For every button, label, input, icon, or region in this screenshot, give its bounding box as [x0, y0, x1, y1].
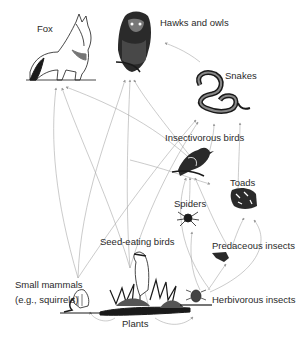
label-seed-eating-birds: Seed-eating birds — [100, 236, 174, 247]
arrow-small-mammals-to-fox — [54, 88, 78, 278]
herbivorous-insect-illustration — [180, 290, 212, 305]
label-predaceous-insects: Predaceous insects — [212, 240, 295, 251]
arrow-herbivorous-to-insectivorous-birds — [181, 178, 210, 290]
owl-illustration — [116, 12, 151, 73]
label-small-mammals-example: (e.g., squirrels) — [15, 294, 78, 305]
arrow-insectivorous-birds-to-fox — [66, 87, 197, 165]
label-fox: Fox — [37, 23, 53, 34]
insectivorous-bird-illustration — [172, 148, 214, 176]
label-snakes: Snakes — [225, 70, 257, 81]
food-web-diagram: Fox Hawks and owls Snakes Insectivorous … — [0, 0, 301, 339]
spider-illustration — [177, 212, 199, 226]
label-hawks-and-owls: Hawks and owls — [160, 17, 229, 28]
predaceous-insect-illustration — [212, 252, 229, 262]
arrow-snakes-to-hawks — [165, 43, 200, 62]
label-spiders: Spiders — [174, 198, 206, 209]
arrow-insectivorous-birds-to-hawks — [134, 80, 197, 165]
label-insectivorous-birds: Insectivorous birds — [165, 132, 244, 143]
arrow-predaceous-to-insectivorous-birds — [195, 178, 228, 247]
label-herbivorous-insects: Herbivorous insects — [212, 294, 295, 305]
label-small-mammals: Small mammals — [15, 279, 83, 290]
arrow-plants-to-herbivorous — [155, 317, 193, 324]
toad-illustration — [231, 188, 257, 209]
arrow-herbivorous-to-predaceous — [208, 264, 226, 290]
label-plants: Plants — [122, 318, 148, 329]
seed-eating-bird-illustration — [134, 252, 149, 304]
label-toads: Toads — [230, 177, 255, 188]
